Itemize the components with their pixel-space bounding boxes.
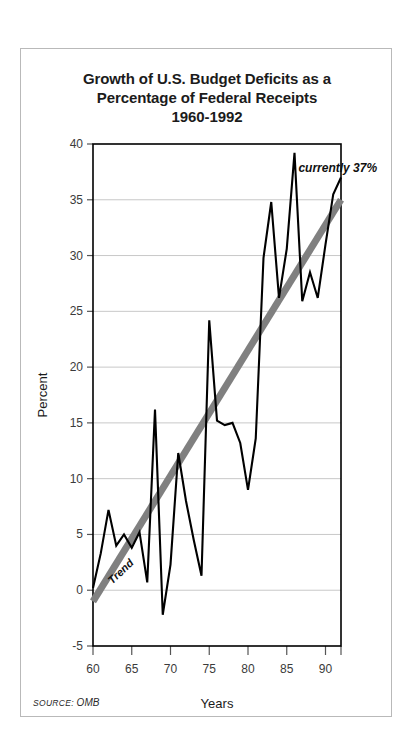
y-tick-label: 15	[70, 416, 84, 430]
trend-line	[93, 200, 341, 602]
y-tick-label: 5	[76, 527, 83, 541]
budget-deficit-line-chart: -50510152025303540 60657075808590 curren…	[21, 49, 393, 718]
plot-container: -50510152025303540 60657075808590 curren…	[21, 49, 393, 718]
annotation-currently-37: currently 37%	[298, 161, 377, 175]
source-note: SOURCE: OMB	[33, 697, 99, 708]
x-tick-label: 85	[280, 662, 294, 676]
x-axis-ticks	[93, 646, 341, 655]
x-tick-label: 60	[86, 662, 100, 676]
y-tick-label: 0	[76, 583, 83, 597]
x-axis-tick-labels: 60657075808590	[86, 662, 332, 676]
y-tick-label: 35	[70, 193, 84, 207]
y-axis-tick-labels: -50510152025303540	[70, 137, 84, 653]
x-tick-label: 75	[203, 662, 217, 676]
x-tick-label: 65	[125, 662, 139, 676]
y-tick-label: 20	[70, 360, 84, 374]
y-tick-label: -5	[72, 639, 83, 653]
y-tick-label: 30	[70, 249, 84, 263]
chart-frame: Growth of U.S. Budget Deficits as a Perc…	[20, 48, 392, 717]
x-tick-label: 80	[241, 662, 255, 676]
y-axis-ticks	[87, 144, 93, 646]
y-axis-title: Percent	[35, 372, 50, 417]
source-value: OMB	[77, 697, 100, 708]
x-tick-label: 70	[164, 662, 178, 676]
x-tick-label: 90	[319, 662, 333, 676]
y-tick-label: 25	[70, 304, 84, 318]
data-series-line	[93, 153, 341, 615]
y-tick-label: 40	[70, 137, 84, 151]
y-tick-label: 10	[70, 472, 84, 486]
x-axis-title: Years	[201, 696, 234, 711]
source-prefix: SOURCE:	[33, 698, 74, 708]
